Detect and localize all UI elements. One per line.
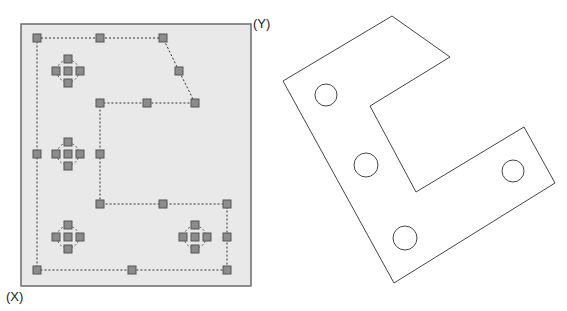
grip-handle[interactable]: [203, 233, 211, 241]
grip-handle[interactable]: [76, 150, 84, 158]
grip-handle[interactable]: [33, 150, 41, 158]
grip-handle[interactable]: [52, 150, 60, 158]
grip-handle[interactable]: [96, 99, 104, 107]
grip-handle[interactable]: [96, 200, 104, 208]
grip-handle[interactable]: [96, 150, 104, 158]
grip-handle[interactable]: [175, 67, 183, 75]
grip-handle[interactable]: [33, 34, 41, 42]
part-hole-circle: [502, 160, 524, 182]
grip-handle[interactable]: [64, 55, 72, 63]
grip-handle[interactable]: [128, 266, 136, 274]
x-axis-label: (X): [6, 290, 23, 303]
part-outline: [283, 16, 555, 283]
grip-handle[interactable]: [96, 34, 104, 42]
grip-edit-panel: [21, 24, 251, 286]
grip-handle[interactable]: [64, 233, 72, 241]
grip-handle[interactable]: [191, 233, 199, 241]
grip-handle[interactable]: [76, 233, 84, 241]
grip-handle[interactable]: [223, 233, 231, 241]
grip-handle[interactable]: [64, 79, 72, 87]
grip-handle[interactable]: [191, 245, 199, 253]
grip-handle[interactable]: [76, 67, 84, 75]
part-hole-circle: [393, 226, 417, 250]
grip-handle[interactable]: [52, 233, 60, 241]
part-hole-circle: [354, 153, 378, 177]
grip-handle[interactable]: [64, 138, 72, 146]
grip-handle[interactable]: [223, 200, 231, 208]
grip-handle[interactable]: [64, 67, 72, 75]
grip-handle[interactable]: [64, 162, 72, 170]
y-axis-label: (Y): [253, 17, 270, 30]
grip-handle[interactable]: [143, 99, 151, 107]
rotated-l-bracket-part: [283, 16, 555, 283]
grip-handle[interactable]: [64, 221, 72, 229]
drawing-canvas: [0, 0, 567, 311]
grip-handle[interactable]: [223, 266, 231, 274]
grip-handle[interactable]: [64, 150, 72, 158]
grip-handle[interactable]: [191, 99, 199, 107]
grip-handle[interactable]: [159, 200, 167, 208]
grip-handle[interactable]: [52, 67, 60, 75]
grip-handle[interactable]: [33, 266, 41, 274]
grip-handle[interactable]: [191, 221, 199, 229]
grip-handle[interactable]: [159, 34, 167, 42]
grip-handle[interactable]: [64, 245, 72, 253]
grip-handle[interactable]: [179, 233, 187, 241]
part-hole-circle: [315, 84, 337, 106]
